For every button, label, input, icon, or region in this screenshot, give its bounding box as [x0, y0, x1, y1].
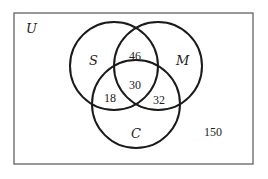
set-s-label: S	[89, 53, 98, 68]
region-m-c-value: 32	[153, 93, 165, 107]
outside-value: 150	[204, 125, 222, 139]
universe-label: U	[26, 21, 38, 36]
set-m-label: M	[175, 53, 190, 68]
region-s-m-value: 46	[129, 49, 141, 63]
set-c-label: C	[131, 126, 141, 141]
venn-diagram: U S M C 46 30 18 32 150	[0, 0, 268, 179]
region-s-m-c-value: 30	[129, 78, 141, 92]
region-s-c-value: 18	[104, 91, 116, 105]
